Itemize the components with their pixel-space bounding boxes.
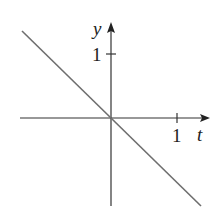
t-tick-label: 1 bbox=[172, 125, 182, 146]
graph-diagram: y 1 1 t bbox=[0, 0, 218, 213]
plot-canvas: y 1 1 t bbox=[0, 0, 218, 213]
y-tick-label: 1 bbox=[92, 44, 102, 65]
y-axis-label: y bbox=[91, 18, 102, 39]
t-axis-label: t bbox=[197, 124, 203, 145]
